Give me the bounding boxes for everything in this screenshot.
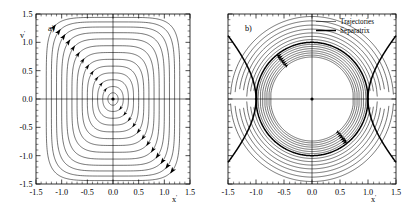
- flow-arrow: [119, 106, 123, 110]
- flow-arrow: [94, 76, 98, 81]
- x-tick-label: 0.5: [134, 188, 144, 197]
- y-tick-label: 0.0: [22, 95, 32, 104]
- x-tick-label: 1.5: [185, 188, 195, 197]
- flow-arrow: [75, 52, 80, 58]
- panel-a: -1.5-1.0-0.50.00.51.01.5 -1.5-1.0-0.50.0…: [0, 0, 205, 213]
- panel-a-svg: -1.5-1.0-0.50.00.51.01.5 -1.5-1.0-0.50.0…: [0, 0, 205, 213]
- flow-arrow: [132, 122, 136, 127]
- flow-arrow: [60, 34, 65, 41]
- y-tick-label: -0.5: [20, 123, 33, 132]
- panel-b-label: b): [245, 24, 252, 33]
- figure-container: -1.5-1.0-0.50.00.51.01.5 -1.5-1.0-0.50.0…: [0, 0, 411, 213]
- panel-a-x-axis-title: x': [172, 194, 177, 204]
- x-tick-label: 1.5: [391, 188, 401, 197]
- flow-arrow: [165, 162, 171, 169]
- flow-arrow: [160, 158, 165, 165]
- separatrix-branch: [368, 99, 396, 162]
- flow-arrow: [141, 134, 146, 140]
- x-tick-label: 0.5: [335, 188, 345, 197]
- x-tick-label: -1.0: [55, 188, 68, 197]
- flow-arrow: [128, 117, 132, 122]
- separatrix-branch: [228, 36, 256, 99]
- panel-b-x-axis-title: x': [371, 194, 376, 204]
- separatrix-branch: [228, 99, 256, 162]
- legend-label-trajectories: Trajectories: [340, 18, 374, 26]
- flow-arrow: [156, 152, 161, 158]
- flow-arrow: [103, 88, 107, 92]
- panel-b-svg: -1.5-1.0-0.50.00.51.01.5 b) x' Trajector…: [205, 0, 411, 213]
- y-tick-label: -1.5: [20, 180, 33, 189]
- panel-b: -1.5-1.0-0.50.00.51.01.5 b) x' Trajector…: [205, 0, 411, 213]
- flow-arrow: [65, 39, 70, 45]
- x-tick-label: 0.0: [307, 188, 317, 197]
- flow-arrow: [55, 29, 61, 36]
- flow-arrow: [89, 70, 93, 75]
- panel-a-center-fixed-point: [111, 97, 114, 100]
- flow-arrow: [151, 147, 156, 153]
- legend-label-separatrix: Separatrix: [340, 27, 370, 35]
- x-tick-label: -0.5: [278, 188, 291, 197]
- flow-arrow: [123, 111, 127, 116]
- panel-a-label: a): [48, 24, 55, 33]
- flow-arrow: [85, 64, 89, 69]
- panel-a-x-tick-labels: -1.5-1.0-0.50.00.51.01.5: [30, 188, 196, 197]
- y-tick-label: 1.5: [22, 10, 32, 19]
- legend: Trajectories Separatrix: [316, 18, 374, 35]
- flow-arrow: [70, 45, 75, 51]
- x-tick-label: -0.5: [81, 188, 94, 197]
- x-tick-label: -1.5: [222, 188, 235, 197]
- flow-arrow: [170, 167, 176, 174]
- x-tick-label: 0.0: [108, 188, 118, 197]
- separatrix-branch: [368, 36, 396, 99]
- x-tick-label: -1.0: [250, 188, 263, 197]
- flow-arrow: [99, 82, 103, 87]
- panel-b-center-fixed-point: [310, 97, 313, 100]
- x-tick-label: 1.0: [159, 188, 169, 197]
- flow-arrow: [80, 58, 85, 64]
- y-tick-label: 0.5: [22, 67, 32, 76]
- flow-arrow: [137, 128, 141, 133]
- flow-arrow: [146, 140, 151, 146]
- y-tick-label: -1.0: [20, 152, 33, 161]
